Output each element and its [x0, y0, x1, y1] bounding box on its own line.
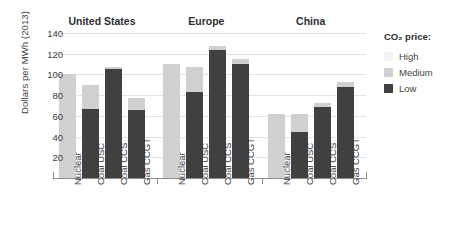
x-axis-label-coal-ccs: Coal CCS: [327, 143, 338, 185]
legend-items: HighMediumLow: [384, 48, 458, 96]
x-axis-label-nuclear: Nuclear: [176, 152, 187, 185]
bar-segment-medium: [128, 98, 145, 109]
legend-label-high: High: [399, 51, 419, 62]
y-tick-label-100: 100: [23, 69, 63, 80]
axis-end-cap-left: [53, 172, 54, 179]
bar-segment-medium: [186, 67, 203, 92]
y-tick-label-20: 20: [23, 152, 63, 163]
x-axis-label-coal-ccs: Coal CCS: [222, 143, 233, 185]
co2-price-levelized-cost-chart: Dollars per MWh (2013) 20406080100120140…: [0, 0, 459, 238]
x-axis-label-coal-ccs: Coal CCS: [118, 143, 129, 185]
legend-label-low: Low: [399, 83, 416, 94]
y-tick-label-120: 120: [23, 48, 63, 59]
group-title-united-states: United States: [68, 15, 135, 27]
legend-label-medium: Medium: [399, 67, 433, 78]
group-divider: [262, 178, 263, 184]
legend-item-low[interactable]: Low: [384, 80, 458, 96]
y-tick-label-140: 140: [23, 28, 63, 39]
y-tick-label-80: 80: [23, 90, 63, 101]
gridline-140: [53, 33, 366, 34]
x-axis-label-gas-ccgt: Gas CCGT: [350, 138, 361, 185]
x-axis-label-nuclear: Nuclear: [72, 152, 83, 185]
legend-item-medium[interactable]: Medium: [384, 64, 458, 80]
x-axis-label-gas-ccgt: Gas CCGT: [245, 138, 256, 185]
bar-segment-medium: [82, 85, 99, 109]
x-axis-label-coal-usc: Coal USC: [95, 143, 106, 185]
x-axis-label-gas-ccgt: Gas CCGT: [141, 138, 152, 185]
y-tick-label-40: 40: [23, 131, 63, 142]
x-axis-label-coal-usc: Coal USC: [304, 143, 315, 185]
group-title-europe: Europe: [188, 15, 224, 27]
y-tick-label-60: 60: [23, 110, 63, 121]
x-axis-label-coal-usc: Coal USC: [199, 143, 210, 185]
x-axis-label-nuclear: Nuclear: [281, 152, 292, 185]
legend-swatch-low: [384, 84, 393, 93]
clipped-top-caption: [0, 0, 459, 10]
legend: CO₂ price: HighMediumLow: [384, 31, 458, 96]
axis-end-cap-right: [366, 172, 367, 179]
legend-item-high[interactable]: High: [384, 48, 458, 64]
legend-swatch-medium: [384, 68, 393, 77]
legend-title: CO₂ price:: [384, 31, 458, 42]
bar-segment-medium: [291, 114, 308, 133]
group-divider: [157, 178, 158, 184]
legend-swatch-high: [384, 52, 393, 61]
group-title-china: China: [296, 15, 325, 27]
